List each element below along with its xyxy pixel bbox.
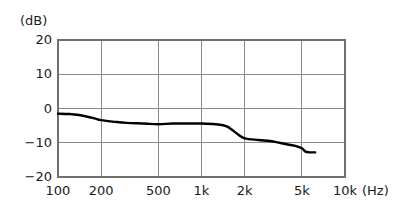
y-tick-label: −20 xyxy=(12,169,52,184)
x-tick-label: 2k xyxy=(222,183,268,198)
series-layer xyxy=(58,114,315,153)
x-tick-label: 500 xyxy=(135,183,181,198)
y-tick-label: 10 xyxy=(12,66,52,81)
x-tick-label: 1k xyxy=(179,183,225,198)
x-axis-unit-label: (Hz) xyxy=(362,183,389,198)
y-tick-label: 20 xyxy=(12,32,52,47)
x-tick-label: 200 xyxy=(78,183,124,198)
x-tick-label: 5k xyxy=(279,183,325,198)
y-tick-label: 0 xyxy=(12,101,52,116)
y-tick-label: −10 xyxy=(12,135,52,150)
frequency-response-chart: (dB) 20100−10−20 1002005001k2k5k10k (Hz) xyxy=(0,0,407,220)
x-tick-label: 100 xyxy=(35,183,81,198)
